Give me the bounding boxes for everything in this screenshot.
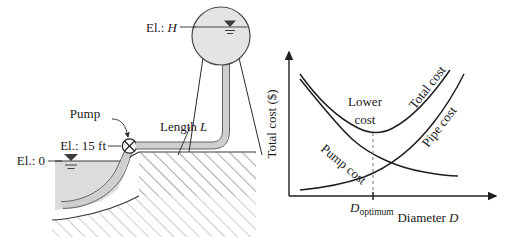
x-axis-label: Diameter D [397, 210, 459, 225]
reservoir-elevation-label: El.: 0 [17, 153, 45, 168]
tank-elevation-label: El.: H [146, 20, 178, 35]
lower-cost-label-line1: Lower [348, 94, 383, 109]
water-tower-tank [192, 7, 250, 65]
cost-chart: Total cost ($) Diameter D Doptimum Lower… [264, 52, 496, 225]
pipe-length-label: Length L [160, 119, 207, 134]
discharge-pipe [136, 64, 230, 149]
pump-elevation-label: El.: 15 ft [60, 138, 106, 153]
figure-canvas: El.: H El.: 15 ft Pump Length L El.: 0 T… [0, 0, 507, 237]
y-axis-label: Total cost ($) [264, 89, 279, 158]
pump-label: Pump [70, 106, 100, 121]
total-cost-curve-label: Total cost [406, 62, 449, 112]
lower-cost-label-line2: cost [355, 112, 376, 127]
figure-container: El.: H El.: 15 ft Pump Length L El.: 0 T… [0, 0, 507, 237]
pump-circle-x-icon [122, 139, 136, 153]
d-optimum-label: Doptimum [349, 200, 394, 217]
pipe-cost-curve-label: Pipe cost [419, 103, 460, 150]
